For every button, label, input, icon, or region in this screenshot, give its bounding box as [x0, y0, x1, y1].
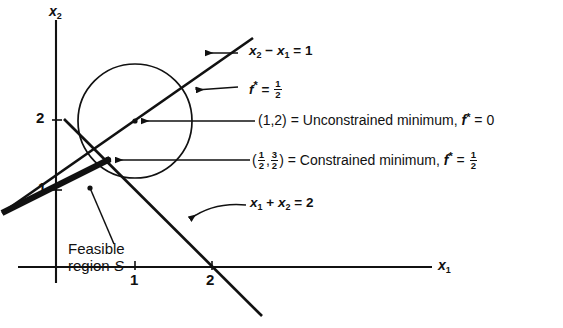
unconstrained-equals: = [291, 112, 299, 128]
constrained-value-num: 1 [470, 150, 477, 161]
eq2-rhs: 2 [306, 195, 314, 210]
eq1-minus: − [265, 43, 273, 58]
objective-frac-den: 2 [274, 90, 281, 100]
unconstrained-text: Unconstrained minimum, [303, 112, 458, 128]
unconstrained-point: (1,2) [258, 112, 287, 128]
eq2-sub2: 2 [285, 202, 290, 212]
constrained-value-fraction: 12 [470, 150, 477, 170]
x-tick-label-1: 1 [130, 272, 138, 288]
constrained-y-num: 3 [271, 150, 278, 161]
constrained-text: Constrained minimum, [300, 152, 440, 168]
unconstrained-star: * [466, 111, 470, 123]
objective-value-label: f* = 12 [249, 79, 283, 99]
unconstrained-minimum-point [132, 118, 137, 123]
constrained-paren-open: ( [252, 152, 257, 168]
constrained-comma: , [266, 152, 270, 168]
leader-objective-value [196, 87, 238, 90]
constrained-minimum-point [105, 157, 111, 163]
unconstrained-value: 0 [486, 112, 494, 128]
unconstrained-eq2: = [474, 112, 482, 128]
y-axis-label: x2 [49, 4, 62, 21]
unconstrained-minimum-label: (1,2) = Unconstrained minimum, f* = 0 [258, 112, 494, 128]
constrained-minimum-label: (12,32) = Constrained minimum, f* = 12 [252, 150, 478, 170]
feasible-region-label: Feasibleregion S [68, 241, 125, 275]
eq2-sub1: 1 [258, 202, 263, 212]
eq1-sub2: 1 [284, 50, 289, 60]
eq1-var1: x [249, 43, 257, 58]
y-axis-label-sub: 2 [57, 11, 62, 21]
y-axis-label-var: x [49, 3, 57, 19]
eq2-var1: x [250, 195, 258, 210]
feasible-region-set-symbol: S [114, 257, 124, 274]
constraint-line-equation-label: x2 − x1 = 1 [249, 44, 312, 60]
constrained-x-den: 2 [258, 161, 265, 171]
constrained-eq2: = [457, 152, 465, 168]
leader-feasible-region [90, 188, 114, 244]
y-tick-label-2: 2 [36, 110, 44, 126]
constrained-value-den: 2 [470, 161, 477, 171]
constrained-equals: = [288, 152, 296, 168]
x-axis-label-sub: 1 [446, 265, 451, 275]
x-axis-label: x1 [438, 258, 451, 275]
feasible-region-line1: Feasible [68, 240, 125, 257]
constrained-x-num: 1 [258, 150, 265, 161]
leader-boundary-line-eq [190, 205, 246, 219]
objective-equals: = [262, 82, 270, 97]
objective-star: * [254, 79, 258, 91]
boundary-line-equation-label: x1 + x2 = 2 [250, 196, 313, 212]
eq1-rhs: 1 [305, 43, 313, 58]
constrained-y-fraction: 32 [271, 150, 278, 170]
constraint-line-x1-plus-x2 [64, 119, 262, 316]
constrained-x-fraction: 12 [258, 150, 265, 170]
eq2-equals: = [294, 195, 302, 210]
x-tick-label-2: 2 [206, 272, 214, 288]
eq1-sub1: 2 [257, 50, 262, 60]
eq1-equals: = [293, 43, 301, 58]
x-axis-label-var: x [438, 257, 446, 273]
objective-fraction: 12 [274, 79, 281, 99]
objective-frac-num: 1 [274, 79, 281, 90]
feasible-region-line2: region [68, 257, 110, 274]
constrained-paren-close: ) [279, 152, 284, 168]
constrained-y-den: 2 [271, 161, 278, 171]
eq2-plus: + [266, 195, 274, 210]
y-tick-label-1: 1 [38, 180, 46, 196]
constrained-star: * [448, 150, 452, 162]
